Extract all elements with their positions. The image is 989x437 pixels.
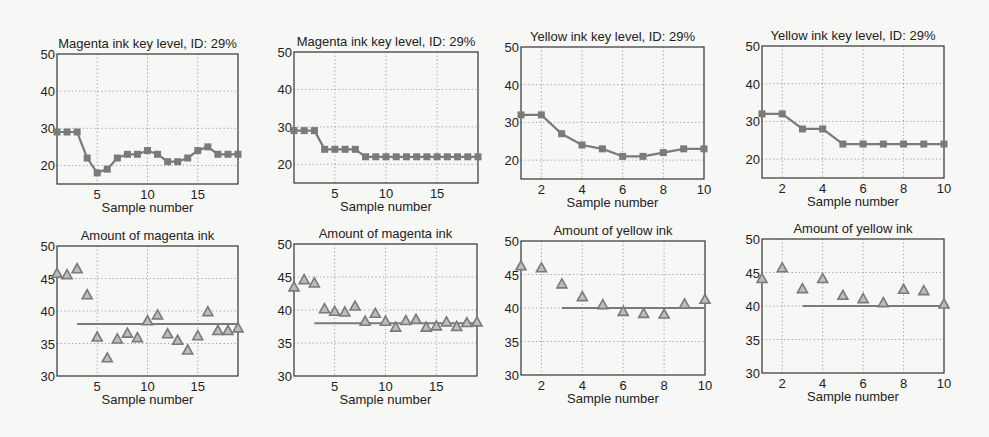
- triangle-marker: [472, 317, 482, 326]
- triangle-marker: [183, 345, 193, 354]
- triangle-marker: [143, 316, 153, 325]
- triangle-marker: [193, 331, 203, 340]
- square-marker: [184, 155, 191, 162]
- y-tick-label: 40: [41, 304, 55, 319]
- panel-yellow-amount-1: Amount of yellow ink2468103035404550Samp…: [505, 223, 713, 406]
- square-marker: [321, 146, 328, 153]
- square-marker: [475, 153, 482, 160]
- y-tick-label: 50: [278, 237, 292, 252]
- x-tick-label: 5: [94, 379, 101, 394]
- x-tick-label: 8: [660, 182, 667, 197]
- series-line: [521, 115, 704, 156]
- square-marker: [124, 151, 131, 158]
- triangle-marker: [536, 263, 546, 272]
- square-marker: [164, 158, 171, 165]
- square-marker: [619, 153, 626, 160]
- triangle-marker: [213, 326, 223, 335]
- y-tick-label: 20: [505, 153, 519, 168]
- x-tick-label: 8: [900, 376, 907, 391]
- triangle-marker: [700, 294, 710, 303]
- x-tick-label: 5: [331, 186, 338, 201]
- x-axis-label: Sample number: [807, 194, 899, 209]
- y-tick-label: 40: [278, 303, 292, 318]
- triangle-marker: [577, 292, 587, 301]
- y-tick-label: 50: [278, 45, 292, 60]
- x-axis-label: Sample number: [567, 195, 659, 210]
- panel-yellow-amount-2: Amount of yellow ink2468103035404550Samp…: [746, 221, 952, 404]
- y-tick-label: 40: [746, 299, 760, 314]
- square-marker: [311, 127, 318, 134]
- triangle-marker: [299, 275, 309, 284]
- y-tick-label: 20: [746, 152, 760, 167]
- square-marker: [291, 127, 298, 134]
- chart-title: Amount of yellow ink: [793, 221, 913, 236]
- x-axis-label: Sample number: [340, 392, 432, 407]
- triangle-marker: [899, 284, 909, 293]
- triangle-marker: [598, 300, 608, 309]
- square-marker: [144, 147, 151, 154]
- y-tick-label: 40: [746, 77, 760, 92]
- triangle-marker: [112, 334, 122, 343]
- triangle-marker: [939, 299, 949, 308]
- triangle-marker: [659, 309, 669, 318]
- square-marker: [94, 169, 101, 176]
- square-marker: [660, 149, 667, 156]
- square-marker: [434, 153, 441, 160]
- triangle-marker: [122, 328, 132, 337]
- triangle-marker: [72, 264, 82, 273]
- triangle-marker: [92, 332, 102, 341]
- y-tick-label: 40: [505, 78, 519, 93]
- y-tick-label: 50: [505, 234, 519, 249]
- triangle-marker: [350, 301, 360, 310]
- triangle-marker: [516, 261, 526, 270]
- plot-frame: [521, 47, 704, 179]
- triangle-marker: [309, 278, 319, 287]
- triangle-marker: [442, 317, 452, 326]
- x-tick-label: 2: [538, 182, 545, 197]
- triangle-marker: [777, 263, 787, 272]
- triangle-marker: [203, 307, 213, 316]
- square-marker: [599, 145, 606, 152]
- triangle-marker: [639, 308, 649, 317]
- x-tick-label: 10: [937, 376, 951, 391]
- triangle-marker: [102, 353, 112, 362]
- triangle-marker: [163, 329, 173, 338]
- square-marker: [342, 146, 349, 153]
- x-tick-label: 10: [697, 182, 711, 197]
- x-tick-label: 2: [538, 378, 545, 393]
- x-tick-label: 10: [698, 378, 712, 393]
- triangle-marker: [818, 274, 828, 283]
- x-axis-label: Sample number: [567, 391, 659, 406]
- triangle-marker: [919, 286, 929, 295]
- square-marker: [941, 141, 948, 148]
- square-marker: [779, 110, 786, 117]
- square-marker: [444, 153, 451, 160]
- triangle-marker: [360, 316, 370, 325]
- square-marker: [403, 153, 410, 160]
- chart-title: Magenta ink key level, ID: 29%: [297, 34, 476, 49]
- x-tick-label: 5: [94, 187, 101, 202]
- x-axis-label: Sample number: [102, 200, 194, 215]
- x-tick-label: 5: [331, 379, 338, 394]
- ink-key-figure: Magenta ink key level, ID: 29%5101520304…: [0, 0, 989, 437]
- y-tick-label: 30: [505, 115, 519, 130]
- x-tick-label: 8: [900, 181, 907, 196]
- y-tick-label: 35: [41, 337, 55, 352]
- square-marker: [454, 153, 461, 160]
- triangle-marker: [858, 294, 868, 303]
- square-marker: [301, 127, 308, 134]
- square-marker: [759, 110, 766, 117]
- square-marker: [464, 153, 471, 160]
- square-marker: [362, 153, 369, 160]
- chart-title: Yellow ink key level, ID: 29%: [530, 29, 695, 44]
- square-marker: [74, 129, 81, 136]
- x-axis-label: Sample number: [340, 199, 432, 214]
- y-tick-label: 45: [41, 272, 55, 287]
- square-marker: [839, 141, 846, 148]
- square-marker: [920, 141, 927, 148]
- square-marker: [54, 129, 61, 136]
- y-tick-label: 50: [41, 47, 55, 62]
- plot-frame: [762, 46, 944, 178]
- square-marker: [331, 146, 338, 153]
- square-marker: [224, 151, 231, 158]
